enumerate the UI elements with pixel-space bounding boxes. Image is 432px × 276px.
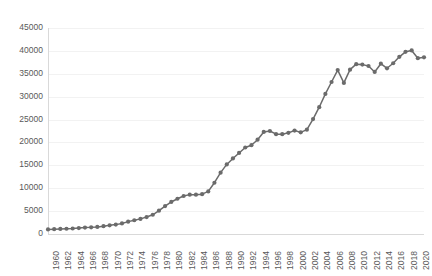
data-point [237,151,241,155]
data-point [132,218,136,222]
data-point [200,192,204,196]
x-tick-label: 2002 [311,251,320,270]
data-point [58,227,62,231]
x-tick-label: 1986 [212,251,221,270]
x-tick-label: 2008 [348,251,357,270]
x-tick-label: 1976 [151,251,160,270]
x-tick-label: 2020 [422,251,431,270]
data-point [77,226,81,230]
data-point [268,129,272,133]
data-point [311,117,315,121]
data-point [323,92,327,96]
data-point [120,221,124,225]
data-point [83,225,87,229]
data-point [101,224,105,228]
x-tick-label: 2012 [373,251,382,270]
data-point [262,130,266,134]
x-tick-label: 1980 [175,251,184,270]
data-point [157,209,161,213]
data-point [286,131,290,135]
data-point [95,225,99,229]
x-tick-label: 1968 [101,251,110,270]
x-tick-label: 2010 [360,251,369,270]
axis-lines [48,28,424,235]
data-point [52,227,56,231]
data-point [379,62,383,66]
x-tick-label: 1964 [77,251,86,270]
x-tick-label: 2018 [410,251,419,270]
data-point [64,227,68,231]
x-tick-label: 1982 [188,251,197,270]
y-tick-label: 35000 [19,69,43,78]
data-point [46,227,50,231]
data-point [243,145,247,149]
x-tick-label: 1966 [89,251,98,270]
x-tick-label: 2006 [336,251,345,270]
data-point [422,55,426,59]
y-tick-label: 5000 [24,206,43,215]
x-tick-label: 1992 [249,251,258,270]
gridlines [48,29,424,235]
data-point [89,225,93,229]
data-point [255,138,259,142]
x-tick-label: 1988 [225,251,234,270]
line-chart-plot [0,0,432,276]
y-tick-label: 10000 [19,183,43,192]
data-point [403,50,407,54]
y-tick-label: 25000 [19,115,43,124]
y-tick-label: 40000 [19,46,43,55]
data-point [206,189,210,193]
data-point [348,68,352,72]
data-point [305,128,309,132]
x-tick-label: 2000 [299,251,308,270]
x-tick-label: 2004 [323,251,332,270]
x-tick-label: 1960 [52,251,61,270]
x-tick-label: 2016 [397,251,406,270]
data-point [397,55,401,59]
data-point [175,197,179,201]
data-point [231,156,235,160]
data-point-markers [46,48,426,231]
data-point [182,194,186,198]
data-point [163,204,167,208]
x-tick-label: 1978 [163,251,172,270]
y-tick-label: 20000 [19,137,43,146]
data-point [317,105,321,109]
data-point [194,193,198,197]
y-tick-label: 30000 [19,92,43,101]
data-point [292,128,296,132]
data-point [274,132,278,136]
data-line-series [48,50,424,229]
data-point [218,171,222,175]
data-point [126,220,130,224]
data-point [249,143,253,147]
x-tick-label: 1994 [262,251,271,270]
data-point [373,70,377,74]
data-point [336,68,340,72]
y-tick-label: 45000 [19,23,43,32]
data-point [169,200,173,204]
data-point [329,80,333,84]
data-point [225,162,229,166]
data-point [114,223,118,227]
data-point [366,64,370,68]
data-point [354,62,358,66]
x-tick-label: 1996 [274,251,283,270]
y-tick-label: 0 [38,229,43,238]
data-point [145,215,149,219]
chart-container: 0500010000150002000025000300003500040000… [0,0,432,276]
x-tick-label: 1972 [126,251,135,270]
data-point [280,132,284,136]
x-tick-label: 1970 [114,251,123,270]
x-tick-label: 1984 [200,251,209,270]
data-point [138,217,142,221]
data-point [391,61,395,65]
data-point [108,223,112,227]
x-tick-label: 1998 [286,251,295,270]
data-point [151,213,155,217]
x-tick-label: 1962 [64,251,73,270]
data-point [385,66,389,70]
data-point [212,181,216,185]
data-point [342,81,346,85]
data-point [360,63,364,67]
